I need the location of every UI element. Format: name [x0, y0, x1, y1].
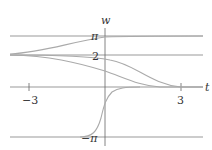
curve-rises-from-neg-pi — [80, 87, 140, 137]
w-axis-label: w — [101, 14, 111, 27]
t-axis-label: t — [205, 81, 210, 94]
diagram-canvas: w t π 2 −π −3 3 — [0, 0, 212, 150]
neg-pi-label: −π — [81, 132, 98, 145]
tick-label-3: 3 — [177, 94, 184, 107]
tick-label-neg-3: −3 — [22, 94, 38, 107]
two-label: 2 — [92, 50, 99, 63]
curve-rises-to-pi — [10, 36, 203, 54]
pi-label: π — [90, 30, 99, 43]
